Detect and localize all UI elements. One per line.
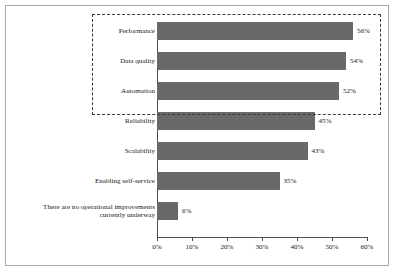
x-tick-mark (332, 237, 333, 241)
bar-value-label: 56% (357, 22, 370, 40)
category-label: Enabling self-service (5, 177, 155, 185)
bar-value-label: 6% (182, 202, 191, 220)
x-tick-mark (297, 237, 298, 241)
bar (157, 112, 315, 130)
x-tick-label: 60% (352, 243, 382, 251)
category-label: There are no operational improvements cu… (5, 203, 155, 220)
bar (157, 202, 178, 220)
x-tick-mark (227, 237, 228, 241)
category-label: Performance (5, 27, 155, 35)
bar (157, 52, 346, 70)
category-label: Scalability (5, 147, 155, 155)
bar (157, 82, 339, 100)
bar-chart-figure: Performance Data quality Automation Reli… (0, 0, 395, 272)
figure-border (5, 5, 389, 266)
category-label: Data quality (5, 57, 155, 65)
bar-value-label: 52% (343, 82, 356, 100)
category-label: Automation (5, 87, 155, 95)
bar (157, 142, 308, 160)
x-tick-label: 40% (282, 243, 312, 251)
x-tick-label: 20% (212, 243, 242, 251)
bar (157, 172, 280, 190)
x-tick-label: 10% (177, 243, 207, 251)
bar-value-label: 43% (312, 142, 325, 160)
category-label: Reliability (5, 117, 155, 125)
bar-value-label: 35% (284, 172, 297, 190)
x-tick-mark (262, 237, 263, 241)
x-tick-mark (367, 237, 368, 241)
x-tick-mark (157, 237, 158, 241)
bar-value-label: 45% (319, 112, 332, 130)
x-tick-mark (192, 237, 193, 241)
x-tick-label: 0% (142, 243, 172, 251)
bar (157, 22, 353, 40)
x-tick-label: 30% (247, 243, 277, 251)
x-tick-label: 50% (317, 243, 347, 251)
bar-value-label: 54% (350, 52, 363, 70)
